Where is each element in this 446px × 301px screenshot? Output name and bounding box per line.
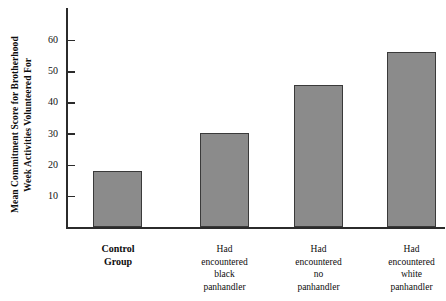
bar-chart: Mean Commitment Score for Brotherhood We… bbox=[0, 0, 446, 301]
x-label-line: panhandler bbox=[371, 281, 446, 294]
x-label-line: black bbox=[184, 268, 265, 281]
x-label-line: encountered bbox=[371, 256, 446, 269]
bar-white-panhandler bbox=[387, 52, 436, 227]
x-label-line: panhandler bbox=[278, 281, 359, 294]
x-label-line: Had bbox=[278, 243, 359, 256]
bar-control-group bbox=[93, 171, 142, 227]
bar-black-panhandler bbox=[200, 133, 249, 227]
y-tick-label-50: 50 bbox=[36, 65, 58, 76]
y-tick-mark-30 bbox=[68, 133, 75, 135]
x-label-line: no bbox=[278, 268, 359, 281]
bar-no-panhandler bbox=[294, 85, 343, 227]
y-tick-label-60: 60 bbox=[36, 34, 58, 45]
x-tick-label-black-panhandler: Had encountered black panhandler bbox=[184, 243, 265, 293]
y-tick-mark-10 bbox=[68, 196, 75, 198]
x-label-line: Control bbox=[83, 243, 153, 256]
x-label-line: white bbox=[371, 268, 446, 281]
plot-area: 10 20 30 40 50 60 Control Group Had enco… bbox=[0, 0, 446, 301]
y-tick-mark-40 bbox=[68, 102, 75, 104]
x-label-line: encountered bbox=[184, 256, 265, 269]
x-tick-label-white-panhandler: Had encountered white panhandler bbox=[371, 243, 446, 293]
x-tick-label-no-panhandler: Had encountered no panhandler bbox=[278, 243, 359, 293]
y-tick-label-30: 30 bbox=[36, 128, 58, 139]
x-tick-label-control-group: Control Group bbox=[83, 243, 153, 268]
y-tick-mark-60 bbox=[68, 40, 75, 42]
y-tick-mark-20 bbox=[68, 165, 75, 167]
x-label-line: panhandler bbox=[184, 281, 265, 294]
x-label-line: encountered bbox=[278, 256, 359, 269]
y-tick-label-40: 40 bbox=[36, 96, 58, 107]
x-label-line: Group bbox=[83, 256, 153, 269]
x-label-line: Had bbox=[184, 243, 265, 256]
y-tick-label-10: 10 bbox=[36, 190, 58, 201]
y-tick-mark-50 bbox=[68, 71, 75, 73]
x-label-line: Had bbox=[371, 243, 446, 256]
y-tick-label-20: 20 bbox=[36, 159, 58, 170]
